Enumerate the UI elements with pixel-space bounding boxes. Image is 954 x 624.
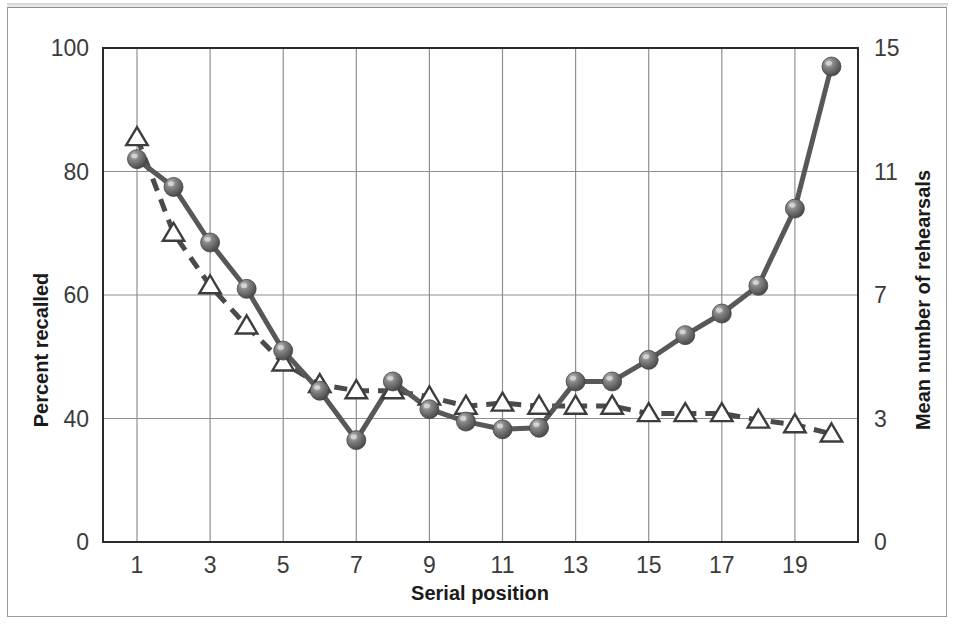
y-tick-label: 0 bbox=[76, 529, 89, 555]
circle-marker-highlight bbox=[497, 424, 503, 429]
circle-marker-highlight bbox=[533, 422, 539, 427]
circle-marker bbox=[603, 372, 622, 391]
circle-marker-highlight bbox=[680, 330, 686, 335]
left-axis-tick-labels: 0406080100 bbox=[51, 35, 89, 555]
circle-marker-highlight bbox=[314, 385, 320, 390]
circle-marker bbox=[310, 381, 329, 400]
circle-marker-highlight bbox=[643, 354, 649, 359]
y2-tick-label: 7 bbox=[874, 282, 887, 308]
circle-marker bbox=[237, 279, 256, 298]
circle-marker bbox=[201, 233, 220, 252]
x-tick-label: 13 bbox=[563, 552, 589, 578]
x-tick-label: 7 bbox=[350, 552, 363, 578]
circle-marker bbox=[456, 412, 475, 431]
circle-marker-highlight bbox=[241, 283, 247, 288]
x-axis-tick-labels: 135791113151719 bbox=[131, 552, 808, 578]
y2-axis-title: Mean number of rehearsals bbox=[912, 170, 934, 430]
circle-marker-highlight bbox=[204, 237, 210, 242]
y2-tick-label: 0 bbox=[874, 529, 887, 555]
x-tick-label: 3 bbox=[204, 552, 217, 578]
circle-marker-highlight bbox=[460, 416, 466, 421]
y2-tick-label: 15 bbox=[874, 35, 900, 61]
circle-marker-highlight bbox=[716, 308, 722, 313]
x-axis-title: Serial position bbox=[411, 582, 549, 604]
y-tick-label: 60 bbox=[63, 282, 89, 308]
circle-marker-highlight bbox=[278, 345, 284, 350]
circle-marker-highlight bbox=[789, 203, 795, 208]
x-tick-label: 9 bbox=[423, 552, 436, 578]
circle-marker bbox=[639, 350, 658, 369]
circle-marker bbox=[530, 418, 549, 437]
y2-tick-label: 3 bbox=[874, 406, 887, 432]
circle-marker bbox=[128, 150, 147, 169]
circle-marker bbox=[383, 372, 402, 391]
circle-marker bbox=[347, 431, 366, 450]
x-tick-label: 11 bbox=[491, 552, 515, 578]
y2-tick-label: 11 bbox=[874, 159, 898, 185]
circle-marker-highlight bbox=[424, 404, 430, 409]
right-axis-tick-labels: 0371115 bbox=[874, 35, 900, 555]
circle-marker-highlight bbox=[826, 61, 832, 66]
figure-container: 0406080100 0371115 135791113151719 Perce… bbox=[0, 0, 954, 624]
circle-marker-highlight bbox=[606, 376, 612, 381]
y-tick-label: 80 bbox=[63, 159, 89, 185]
circle-marker bbox=[822, 57, 841, 76]
x-tick-label: 5 bbox=[277, 552, 290, 578]
circle-marker-highlight bbox=[570, 376, 576, 381]
circle-marker bbox=[493, 420, 512, 439]
x-tick-label: 15 bbox=[636, 552, 662, 578]
circle-marker bbox=[676, 326, 695, 345]
circle-marker bbox=[749, 276, 768, 295]
y-axis-title: Percent recalled bbox=[30, 273, 52, 428]
x-tick-label: 1 bbox=[131, 552, 144, 578]
circle-marker-highlight bbox=[351, 435, 357, 440]
y-tick-label: 100 bbox=[51, 35, 89, 61]
circle-marker bbox=[420, 400, 439, 419]
circle-marker bbox=[712, 304, 731, 323]
circle-marker-highlight bbox=[168, 181, 174, 186]
circle-marker-highlight bbox=[387, 376, 393, 381]
serial-position-chart: 0406080100 0371115 135791113151719 Perce… bbox=[0, 0, 954, 624]
x-tick-label: 19 bbox=[782, 552, 808, 578]
y-tick-label: 40 bbox=[63, 406, 89, 432]
circle-marker bbox=[274, 341, 293, 360]
circle-marker bbox=[566, 372, 585, 391]
x-tick-label: 17 bbox=[709, 552, 735, 578]
circle-marker-highlight bbox=[131, 154, 137, 159]
circle-marker-highlight bbox=[753, 280, 759, 285]
circle-marker bbox=[785, 199, 804, 218]
circle-marker bbox=[164, 177, 183, 196]
